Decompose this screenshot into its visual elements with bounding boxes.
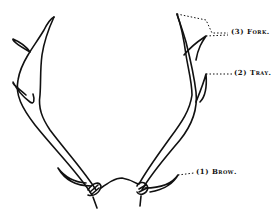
label-brow: (1) Brow.: [196, 167, 237, 176]
label-tray-number: (2): [234, 68, 247, 77]
label-tray: (2) Tray.: [234, 68, 271, 77]
label-fork: (3) Fork.: [231, 27, 270, 36]
label-brow-number: (1): [196, 167, 209, 176]
left-antler: [13, 17, 101, 208]
right-antler: [137, 14, 206, 206]
label-fork-number: (3): [231, 27, 244, 36]
skull-line: [101, 178, 138, 188]
label-brow-text: Brow.: [212, 167, 237, 176]
label-tray-text: Tray.: [250, 68, 272, 77]
label-fork-text: Fork.: [247, 27, 270, 36]
